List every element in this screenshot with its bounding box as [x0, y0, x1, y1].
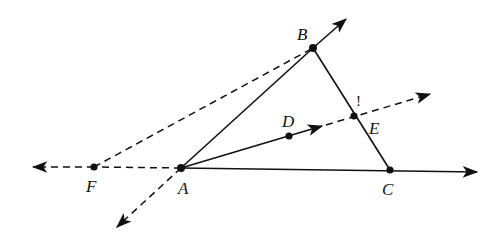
label-f: F — [85, 177, 97, 196]
label-b: B — [297, 25, 308, 44]
point-e — [350, 112, 357, 119]
label-c: C — [382, 180, 394, 199]
label-e: E — [368, 119, 380, 138]
point-d — [285, 132, 292, 139]
label-d: D — [281, 112, 295, 131]
dashed-segment-fb — [94, 48, 313, 167]
ray-ac — [181, 168, 477, 172]
ray-ad — [181, 126, 322, 168]
dashed-ray-a-extension — [117, 168, 181, 227]
dashed-segment-fa — [94, 167, 181, 168]
point-a — [177, 164, 185, 172]
geometry-diagram: B D E ! F A C — [0, 0, 502, 234]
label-a: A — [177, 179, 189, 198]
point-c — [386, 166, 393, 173]
label-mark: ! — [356, 93, 361, 109]
ray-b-extension — [313, 19, 346, 48]
point-b — [309, 44, 317, 52]
segment-ab — [181, 48, 313, 168]
diagram-canvas: B D E ! F A C — [0, 0, 502, 234]
point-f — [90, 163, 97, 170]
